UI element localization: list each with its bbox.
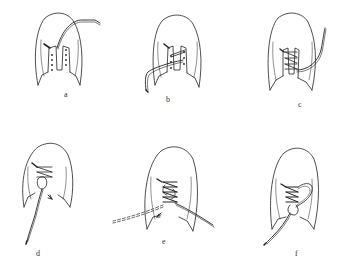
panel-label-a: a bbox=[64, 91, 68, 99]
shoe-drawing-d bbox=[0, 137, 115, 274]
shoe-drawing-c bbox=[226, 0, 341, 137]
shoe-lacing-diagram: a b bbox=[0, 0, 346, 275]
shoe-drawing-b bbox=[113, 0, 228, 137]
panel-label-d: d bbox=[36, 250, 40, 258]
panel-b: b bbox=[113, 0, 228, 137]
panel-e: e bbox=[113, 137, 228, 274]
shoe-drawing-f bbox=[226, 137, 341, 274]
panel-label-c: c bbox=[298, 101, 302, 109]
panel-a: a bbox=[0, 0, 115, 137]
panel-f: f bbox=[226, 137, 341, 274]
panel-d: d bbox=[0, 137, 115, 274]
panel-label-e: e bbox=[162, 238, 166, 246]
shoe-drawing-a bbox=[0, 0, 115, 137]
shoe-drawing-e bbox=[113, 137, 228, 274]
panel-label-b: b bbox=[166, 96, 170, 104]
panel-c: c bbox=[226, 0, 341, 137]
panel-label-f: f bbox=[295, 250, 298, 258]
